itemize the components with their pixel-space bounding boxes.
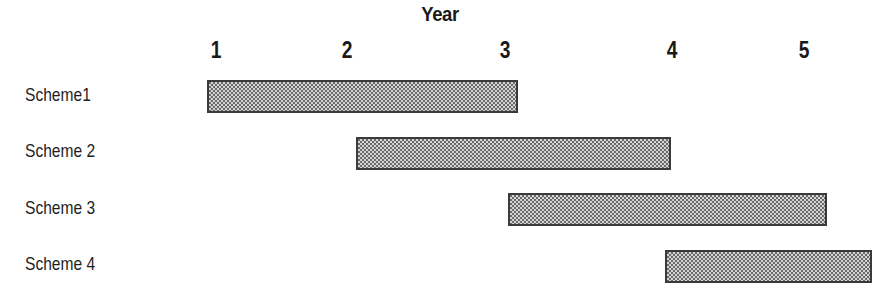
bar-scheme-2	[356, 137, 671, 170]
x-tick-4: 4	[660, 36, 684, 64]
bar-scheme-1	[207, 80, 518, 113]
x-tick-2: 2	[335, 36, 359, 64]
chart-title: Year	[405, 2, 475, 26]
x-tick-1: 1	[204, 36, 228, 64]
x-tick-5: 5	[792, 36, 816, 64]
row-label-scheme-1: Scheme1	[25, 84, 91, 106]
x-tick-3: 3	[493, 36, 517, 64]
gantt-chart: Year 1 2 3 4 5 Scheme1 Scheme 2 Scheme 3…	[0, 0, 891, 308]
bar-scheme-3	[508, 193, 827, 226]
row-label-scheme-4: Scheme 4	[25, 253, 95, 275]
bar-scheme-4	[665, 250, 872, 283]
row-label-scheme-3: Scheme 3	[25, 197, 95, 219]
row-label-scheme-2: Scheme 2	[25, 140, 95, 162]
